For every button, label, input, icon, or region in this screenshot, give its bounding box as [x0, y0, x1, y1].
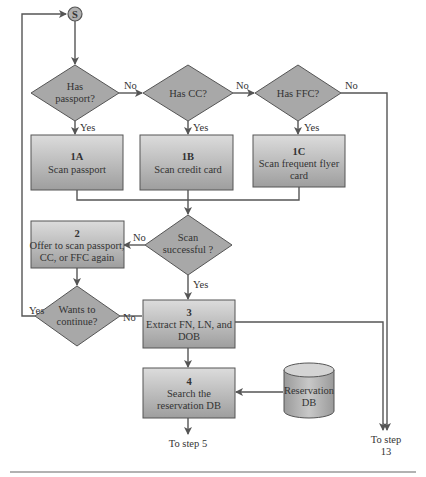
decision-has-passport: Has passport? — [31, 65, 119, 121]
svg-text:No: No — [124, 80, 137, 91]
decision-wants-continue: Wants to continue? — [35, 286, 120, 346]
step-3-box: 3 Extract FN, LN, and DOB — [143, 300, 235, 348]
svg-text:Offer to scan passport,: Offer to scan passport, — [30, 240, 125, 251]
svg-text:successful ?: successful ? — [163, 244, 214, 255]
flowchart: S Has passport? Has CC? Has FFC? Scan su… — [0, 0, 426, 477]
svg-text:Yes: Yes — [193, 122, 208, 133]
step-4-box: 4 Search the reservation DB — [143, 368, 235, 418]
step-2-box: 2 Offer to scan passport, CC, or FFC aga… — [30, 221, 125, 268]
start-node: S — [68, 7, 82, 21]
step-1c-box: 1C Scan frequent flyer card — [253, 135, 345, 187]
to-step-13-label-line2: 13 — [381, 446, 392, 457]
svg-text:2: 2 — [74, 228, 79, 239]
svg-text:Scan passport: Scan passport — [48, 164, 106, 175]
to-step-13-label-line1: To step — [371, 434, 401, 445]
svg-text:DOB: DOB — [178, 331, 200, 342]
svg-text:Yes: Yes — [29, 305, 44, 316]
svg-text:1A: 1A — [71, 151, 84, 162]
svg-text:reservation DB: reservation DB — [157, 400, 221, 411]
svg-text:Scan frequent flyer: Scan frequent flyer — [259, 158, 340, 169]
svg-text:No: No — [123, 312, 136, 323]
svg-text:Has CC?: Has CC? — [169, 88, 207, 99]
svg-text:Has FFC?: Has FFC? — [277, 88, 320, 99]
svg-text:S: S — [72, 9, 78, 20]
reservation-db-cylinder: Reservation DB — [284, 363, 335, 418]
svg-text:Yes: Yes — [304, 122, 319, 133]
svg-text:Reservation: Reservation — [284, 385, 335, 396]
svg-text:Extract FN, LN, and: Extract FN, LN, and — [146, 319, 233, 330]
svg-text:Wants to: Wants to — [59, 304, 96, 315]
svg-text:Yes: Yes — [80, 122, 95, 133]
decision-scan-successful: Scan successful ? — [145, 215, 232, 275]
svg-text:passport?: passport? — [55, 93, 95, 104]
step-1a-box: 1A Scan passport — [31, 135, 123, 190]
svg-text:3: 3 — [186, 307, 191, 318]
svg-text:4: 4 — [186, 376, 192, 387]
svg-text:continue?: continue? — [57, 316, 98, 327]
svg-text:No: No — [236, 80, 249, 91]
svg-text:Has: Has — [67, 81, 83, 92]
svg-text:Scan: Scan — [178, 232, 199, 243]
svg-text:Search the: Search the — [167, 388, 211, 399]
svg-text:CC, or FFC again: CC, or FFC again — [40, 252, 115, 263]
svg-text:1C: 1C — [293, 146, 306, 157]
svg-text:1B: 1B — [182, 151, 194, 162]
svg-text:DB: DB — [302, 397, 317, 408]
svg-text:card: card — [290, 170, 309, 181]
svg-text:Scan credit card: Scan credit card — [154, 164, 222, 175]
to-step-5-label: To step 5 — [169, 438, 207, 449]
svg-text:No: No — [345, 80, 358, 91]
svg-text:No: No — [133, 232, 146, 243]
step-1b-box: 1B Scan credit card — [140, 135, 233, 190]
decision-has-cc: Has CC? — [143, 65, 233, 121]
decision-has-ffc: Has FFC? — [255, 65, 341, 121]
svg-text:Yes: Yes — [193, 279, 208, 290]
